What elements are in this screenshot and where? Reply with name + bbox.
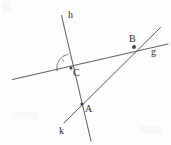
label-point-a: A [85, 103, 93, 114]
geometry-diagram: h g k C B A [0, 0, 171, 145]
label-line-g: g [151, 46, 156, 57]
label-point-c: C [73, 67, 80, 78]
label-line-h: h [68, 9, 73, 20]
label-point-b: B [129, 33, 136, 44]
line-g [13, 44, 169, 80]
line-h [62, 16, 92, 142]
label-line-k: k [59, 125, 64, 136]
point-marker-a [80, 102, 83, 105]
point-marker-b [132, 45, 136, 49]
geometry-figure-canvas: h g k C B A [0, 0, 171, 145]
angle-tick-at-c [62, 60, 64, 61]
